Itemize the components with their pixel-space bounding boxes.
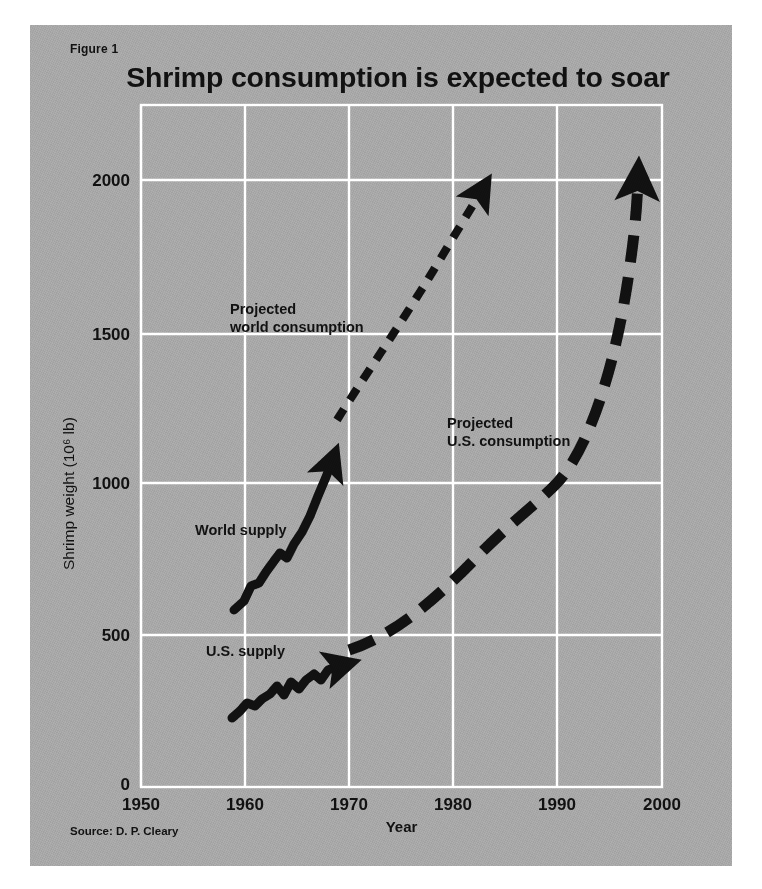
y-tick-0: 0	[78, 775, 130, 795]
x-axis-title: Year	[141, 818, 662, 835]
y-tick-1500: 1500	[78, 325, 130, 345]
annotation-us-supply: U.S. supply	[206, 643, 285, 661]
x-tick-2000: 2000	[627, 795, 697, 815]
x-tick-1950: 1950	[106, 795, 176, 815]
x-tick-1960: 1960	[210, 795, 280, 815]
y-tick-1000: 1000	[78, 474, 130, 494]
x-tick-1980: 1980	[418, 795, 488, 815]
plot-area	[30, 25, 732, 866]
chart-panel: Figure 1 Shrimp consumption is expected …	[30, 25, 732, 866]
annotation-projected-us-consumption: Projected U.S. consumption	[447, 415, 570, 450]
source-note: Source: D. P. Cleary	[70, 825, 178, 837]
x-tick-1990: 1990	[522, 795, 592, 815]
series-us-supply	[232, 665, 343, 718]
x-tick-1970: 1970	[314, 795, 384, 815]
y-axis-title: Shrimp weight (10⁶ lb)	[60, 417, 78, 570]
figure-root: Figure 1 Shrimp consumption is expected …	[0, 0, 762, 889]
annotation-world-supply: World supply	[195, 522, 287, 540]
y-tick-500: 500	[78, 626, 130, 646]
annotation-projected-world-consumption: Projected world consumption	[230, 301, 364, 336]
y-tick-2000: 2000	[78, 171, 130, 191]
